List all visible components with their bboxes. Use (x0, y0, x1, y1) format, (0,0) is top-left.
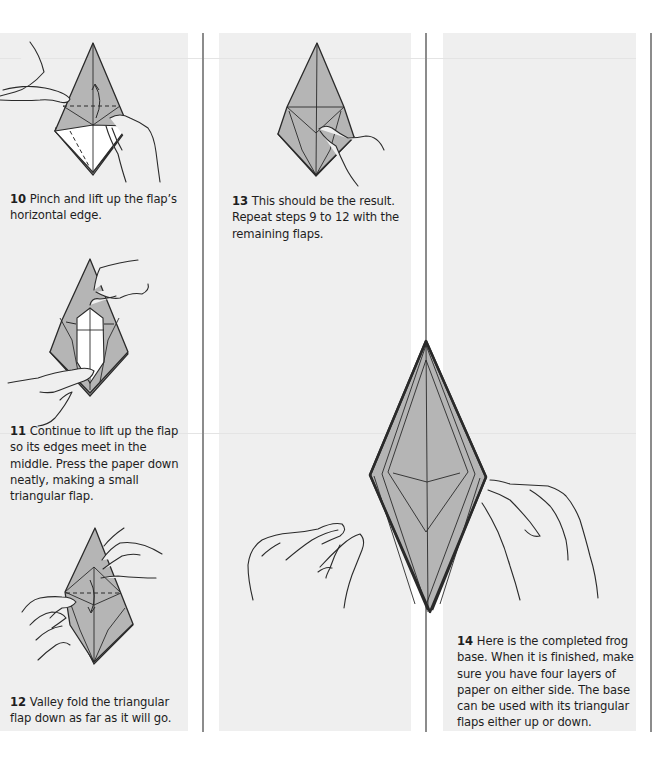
hands-squashing-flap-icon (8, 259, 148, 426)
step-number: 14 (457, 634, 473, 648)
step-text: Continue to lift up the flap so its edge… (10, 424, 178, 503)
step-text: This should be the result. Repeat steps … (232, 194, 399, 241)
completed-frog-base-icon (248, 341, 598, 612)
step-11-caption: 11Continue to lift up the flap so its ed… (10, 423, 190, 504)
step-text: Here is the completed frog base. When it… (457, 634, 634, 729)
step-14-caption: 14Here is the completed frog base. When … (457, 633, 635, 731)
step-text: Valley fold the triangular flap down as … (10, 695, 171, 725)
step-12-caption: 12Valley fold the triangular flap down a… (10, 694, 190, 727)
step-number: 12 (10, 695, 26, 709)
step-number: 10 (10, 192, 26, 206)
step-text: Pinch and lift up the flap’s horizontal … (10, 192, 177, 222)
valley-fold-icon (22, 528, 162, 664)
step-10-caption: 10Pinch and lift up the flap’s horizonta… (10, 191, 188, 224)
step-13-caption: 13This should be the result. Repeat step… (232, 193, 410, 242)
step-number: 11 (10, 424, 26, 438)
result-model-icon (278, 43, 384, 186)
step-number: 13 (232, 194, 248, 208)
hand-lifting-flap-icon (0, 42, 160, 182)
